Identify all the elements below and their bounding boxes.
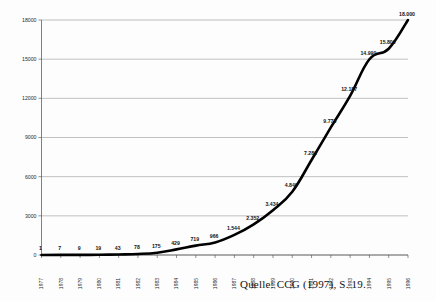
svg-text:1.544: 1.544 (227, 225, 240, 231)
data-point-labels: 1791943781754297199661.5442.3523.4344.84… (39, 11, 415, 252)
svg-text:12000: 12000 (22, 95, 37, 101)
svg-text:0: 0 (34, 252, 37, 258)
svg-text:15.800: 15.800 (380, 39, 396, 45)
svg-text:9.773: 9.773 (323, 118, 336, 124)
gridlines (42, 20, 409, 255)
chart-figure: 0300060009000120001500018000 19771978197… (0, 0, 436, 301)
svg-text:719: 719 (190, 236, 199, 242)
svg-text:14.990: 14.990 (360, 50, 376, 56)
svg-text:3.434: 3.434 (265, 201, 278, 207)
svg-text:7.280: 7.280 (304, 150, 317, 156)
svg-text:1982: 1982 (135, 278, 141, 289)
source-caption: Quelle: CCG (1997), S. 19. (240, 278, 366, 290)
svg-text:1985: 1985 (193, 278, 199, 289)
svg-text:15000: 15000 (22, 56, 37, 62)
svg-text:12.187: 12.187 (341, 86, 357, 92)
svg-text:18000: 18000 (22, 17, 37, 23)
svg-text:18.000: 18.000 (399, 11, 415, 17)
svg-text:9: 9 (78, 245, 81, 251)
svg-text:9000: 9000 (25, 134, 37, 140)
svg-text:429: 429 (171, 240, 180, 246)
svg-text:7: 7 (58, 245, 61, 251)
svg-text:1994: 1994 (366, 278, 372, 289)
y-axis-ticks: 0300060009000120001500018000 (22, 17, 41, 258)
svg-text:1987: 1987 (231, 278, 237, 289)
svg-text:4.849: 4.849 (285, 182, 298, 188)
svg-text:1996: 1996 (405, 278, 411, 289)
svg-text:6000: 6000 (25, 174, 37, 180)
svg-text:1980: 1980 (96, 278, 102, 289)
svg-text:78: 78 (134, 244, 140, 250)
svg-text:1981: 1981 (115, 278, 121, 289)
svg-text:3000: 3000 (25, 213, 37, 219)
svg-text:19: 19 (95, 245, 101, 251)
svg-text:1: 1 (39, 245, 42, 251)
svg-text:43: 43 (115, 245, 121, 251)
svg-text:1979: 1979 (77, 278, 83, 289)
svg-text:1995: 1995 (386, 278, 392, 289)
svg-text:175: 175 (152, 243, 161, 249)
svg-text:1983: 1983 (154, 278, 160, 289)
svg-text:1977: 1977 (38, 278, 44, 289)
svg-text:966: 966 (210, 233, 219, 239)
svg-text:2.352: 2.352 (246, 215, 259, 221)
svg-text:1986: 1986 (212, 278, 218, 289)
line-chart: 0300060009000120001500018000 19771978197… (0, 0, 436, 301)
svg-text:1984: 1984 (173, 278, 179, 289)
svg-text:1978: 1978 (58, 278, 64, 289)
